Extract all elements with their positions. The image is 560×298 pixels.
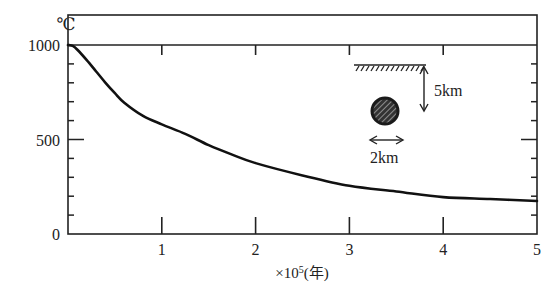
y-tick-label: 1000 — [28, 37, 60, 54]
y-axis-unit: ℃ — [56, 15, 75, 34]
intrusive-body-circle — [372, 98, 398, 124]
y-tick-label: 0 — [52, 226, 60, 243]
x-tick-label: 4 — [439, 241, 447, 258]
x-axis-label: ×105(年) — [275, 264, 328, 282]
y-axis-ticks — [68, 45, 537, 215]
y-axis-tick-labels: 05001000 — [28, 37, 60, 243]
plot-frame — [68, 15, 537, 234]
ground-hatch-marks — [356, 66, 424, 71]
x-tick-label: 1 — [158, 241, 166, 258]
x-tick-label: 5 — [533, 241, 541, 258]
x-tick-label: 3 — [345, 241, 353, 258]
y-tick-label: 500 — [36, 132, 60, 149]
temperature-curve — [68, 45, 537, 201]
cooling-curve-chart: 05001000 12345 ℃ ×105(年) 5km 2km — [0, 0, 560, 298]
x-tick-label: 2 — [252, 241, 260, 258]
intrusion-diagram: 5km 2km — [354, 65, 463, 166]
depth-label: 5km — [434, 82, 463, 99]
diameter-label: 2km — [370, 149, 399, 166]
x-axis-tick-labels: 12345 — [158, 241, 541, 258]
